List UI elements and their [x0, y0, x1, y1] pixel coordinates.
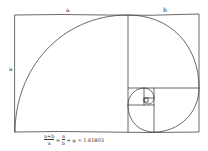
outer-rectangle — [15, 14, 199, 133]
formula-rhs: = φ ≈ 1.61803 — [67, 137, 104, 143]
golden-spiral-diagram — [0, 0, 208, 151]
golden-spiral — [15, 15, 199, 132]
golden-ratio-formula: a+b a = a b = φ ≈ 1.61803 — [44, 133, 104, 146]
formula-mid-numerator: a — [62, 133, 65, 140]
formula-lhs-denominator: a — [44, 140, 54, 146]
label-top-b: b — [163, 7, 167, 13]
label-top-a: a — [66, 7, 70, 13]
formula-lhs-numerator: a+b — [44, 133, 54, 140]
label-side-a: a — [9, 66, 13, 72]
formula-mid-denominator: b — [62, 140, 65, 146]
